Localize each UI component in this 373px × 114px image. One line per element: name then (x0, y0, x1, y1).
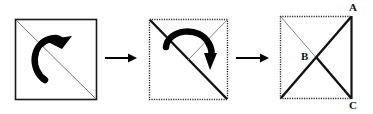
transition-arrow-2 (236, 54, 269, 63)
vertex-label-a: A (349, 2, 357, 13)
transition-arrow-1-head (128, 54, 137, 63)
panel-2-folded-square (150, 20, 228, 100)
rotation-arrow-1-curve-tip (50, 38, 62, 41)
square-3-diagonal-thick-lower (316, 57, 351, 98)
panel-3-result-square (280, 16, 352, 99)
transition-arrow-2-head (260, 54, 269, 63)
square-rotation-diagram: A B C (0, 0, 373, 114)
vertex-label-b: B (301, 51, 308, 62)
transition-arrow-1 (105, 54, 137, 63)
panel-1-original-square (16, 20, 97, 100)
diagram-canvas (0, 0, 373, 114)
vertex-label-c: C (349, 100, 357, 111)
